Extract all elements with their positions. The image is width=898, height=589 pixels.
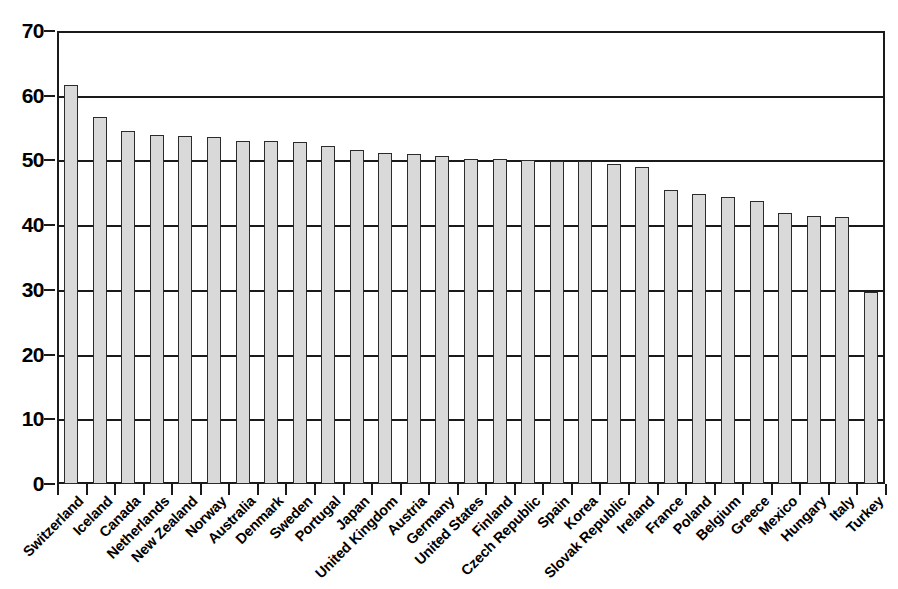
- bar: [807, 216, 821, 484]
- bar: [207, 137, 221, 484]
- y-tick-label: 10: [22, 407, 44, 431]
- y-tick-mark: [44, 30, 55, 32]
- y-tick-label: 40: [22, 213, 44, 237]
- y-tick-mark: [44, 354, 55, 356]
- bar: [407, 154, 421, 484]
- bar: [493, 159, 507, 484]
- bar: [121, 131, 135, 484]
- y-tick-label: 30: [22, 278, 44, 302]
- bar: [350, 150, 364, 484]
- bar: [692, 194, 706, 484]
- bar: [835, 217, 849, 484]
- y-tick-mark: [44, 418, 55, 420]
- bar: [635, 167, 649, 484]
- y-tick-mark: [44, 224, 55, 226]
- y-tick-mark: [44, 289, 55, 291]
- bar: [721, 197, 735, 484]
- y-tick-label: 70: [22, 19, 44, 43]
- x-axis-labels: SwitzerlandIcelandCanadaNetherlandsNew Z…: [0, 484, 898, 589]
- bar: [378, 153, 392, 484]
- bar: [264, 141, 278, 484]
- bar: [778, 213, 792, 484]
- bar: [178, 136, 192, 484]
- bar: [321, 146, 335, 484]
- bar-chart: 010203040506070 SwitzerlandIcelandCanada…: [0, 0, 898, 589]
- y-tick-mark: [44, 95, 55, 97]
- bar: [750, 201, 764, 484]
- bar: [150, 135, 164, 484]
- y-tick-label: 60: [22, 84, 44, 108]
- y-tick-mark: [44, 159, 55, 161]
- bar: [64, 85, 78, 484]
- y-tick-label: 50: [22, 148, 44, 172]
- y-tick-label: 20: [22, 343, 44, 367]
- bar: [293, 142, 307, 484]
- bar: [93, 117, 107, 484]
